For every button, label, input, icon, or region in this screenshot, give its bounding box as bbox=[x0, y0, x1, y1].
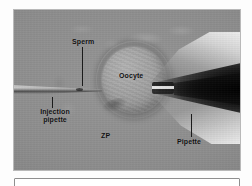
figure-caption-text bbox=[15, 179, 239, 182]
label-holding-pipette: Pipette bbox=[177, 138, 201, 146]
label-injection-pipette-line1: Injection bbox=[40, 108, 70, 115]
sperm-cell bbox=[76, 88, 83, 91]
figure-caption-box bbox=[14, 178, 240, 186]
label-oocyte: Oocyte bbox=[119, 72, 143, 80]
injection-pipette-leader-line bbox=[52, 97, 53, 108]
injection-pipette-needle bbox=[14, 84, 102, 96]
pipette-leader-line bbox=[191, 114, 192, 137]
page-canvas: Sperm Injection pipette Oocyte ZP Pipett… bbox=[0, 0, 252, 186]
micrograph-figure: Sperm Injection pipette Oocyte ZP Pipett… bbox=[14, 10, 240, 170]
label-zona-pellucida: ZP bbox=[101, 132, 110, 140]
sperm-leader-line bbox=[82, 47, 83, 86]
holding-pipette bbox=[150, 32, 240, 144]
holding-pipette-rim bbox=[152, 82, 174, 94]
label-injection-pipette: Injection pipette bbox=[32, 108, 78, 124]
label-sperm: Sperm bbox=[72, 38, 94, 46]
label-injection-pipette-line2: pipette bbox=[43, 116, 67, 123]
